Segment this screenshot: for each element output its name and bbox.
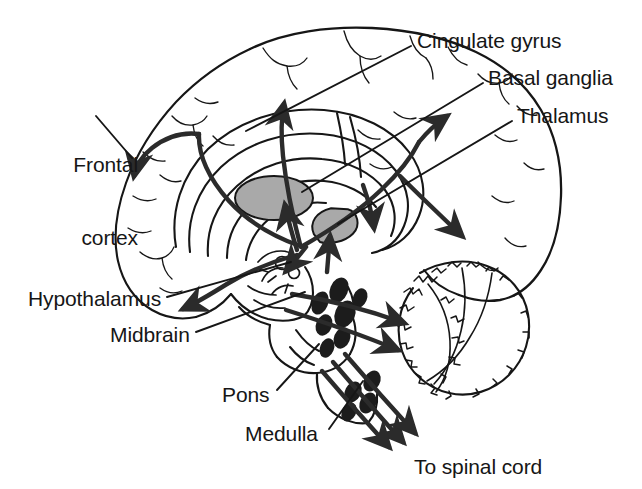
label-midbrain: Midbrain <box>110 323 190 347</box>
label-pons: Pons <box>222 383 269 407</box>
brain-diagram-figure: Cingulate gyrus Basal ganglia Thalamus F… <box>0 0 642 489</box>
label-cingulate-gyrus: Cingulate gyrus <box>417 29 561 53</box>
label-frontal-cortex: Frontal cortex <box>28 104 138 299</box>
basal-ganglia-body <box>235 176 313 220</box>
label-frontal-cortex-line1: Frontal <box>28 153 138 177</box>
label-hypothalamus: Hypothalamus <box>28 287 161 311</box>
label-thalamus: Thalamus <box>517 104 608 128</box>
pathway-occipital <box>400 176 462 236</box>
label-medulla: Medulla <box>245 422 318 446</box>
hypothalamic-region <box>248 251 300 308</box>
label-to-spinal-cord: To spinal cord <box>414 455 542 479</box>
label-basal-ganglia: Basal ganglia <box>488 66 613 90</box>
leader-line-pons <box>277 344 319 390</box>
label-frontal-cortex-line2: cortex <box>28 226 138 250</box>
cerebellum <box>398 262 529 399</box>
pathway-to-thalamus <box>327 236 330 272</box>
